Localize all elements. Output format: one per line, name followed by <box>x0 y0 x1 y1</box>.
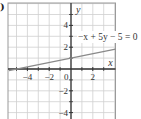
y-tick-label: 2 <box>64 42 69 52</box>
x-axis-label: x <box>107 57 113 68</box>
y-tick-label: −2 <box>58 86 68 96</box>
y-tick-label: −4 <box>58 108 68 118</box>
y-axis-label: y <box>75 4 81 15</box>
x-tick-label: −2 <box>44 72 54 82</box>
y-tick-label: 4 <box>64 20 69 30</box>
chart: −4−20242−2−4xy−x + 5y − 5 = 0 <box>0 0 141 119</box>
x-tick-label: 2 <box>91 72 96 82</box>
x-tick-label: 0 <box>64 72 69 82</box>
x-tick-label: −4 <box>23 72 33 82</box>
equation-label: −x + 5y − 5 = 0 <box>78 32 138 42</box>
series-line <box>9 49 116 70</box>
